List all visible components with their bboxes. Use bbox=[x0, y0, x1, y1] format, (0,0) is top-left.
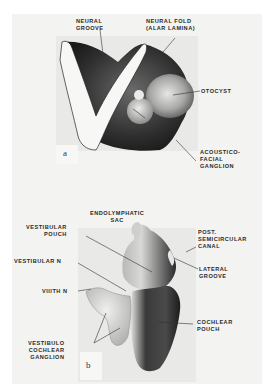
panel-b-letter: b bbox=[86, 360, 91, 370]
label-vestibular-n: VESTIBULAR N bbox=[14, 258, 61, 265]
panel-a-letter-box bbox=[56, 145, 78, 164]
label-neural-groove: NEURAL GROOVE bbox=[76, 18, 104, 32]
label-vestibular-pouch: VESTIBULAR POUCH bbox=[26, 224, 67, 238]
ganglion-shape bbox=[127, 98, 153, 124]
ganglion-knob bbox=[134, 90, 144, 100]
panel-a-letter: a bbox=[63, 148, 67, 158]
label-otocyst: OTOCYST bbox=[201, 88, 231, 95]
otocyst-shape bbox=[146, 74, 194, 118]
label-post-semicircular-canal: POST. SEMICIRCULAR CANAL bbox=[198, 229, 247, 250]
label-endolymphatic-sac: ENDOLYMPHATIC SAC bbox=[90, 210, 144, 224]
label-cochlear-pouch: COCHLEAR POUCH bbox=[197, 319, 233, 333]
diagram-illustration bbox=[0, 0, 275, 388]
label-acoustico-facial-ganglion: ACOUSTICO- FACIAL GANGLION bbox=[200, 149, 240, 170]
panel-b-letter-box bbox=[80, 352, 102, 380]
figure-page: NEURAL GROOVE NEURAL FOLD (ALAR LAMINA) … bbox=[0, 0, 275, 388]
label-vestibulo-cochlear-ganglion: VESTIBULO COCHLEAR GANGLION bbox=[28, 340, 65, 361]
label-lateral-groove: LATERAL GROOVE bbox=[199, 266, 228, 280]
label-viiith-n: VIIITH N bbox=[42, 288, 67, 295]
label-neural-fold: NEURAL FOLD (ALAR LAMINA) bbox=[146, 18, 195, 32]
